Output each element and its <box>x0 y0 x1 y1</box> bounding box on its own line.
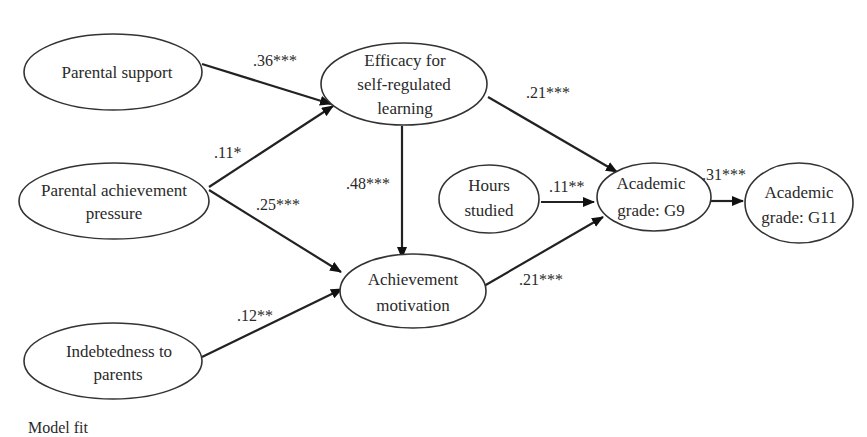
node-label-line2: pressure <box>86 204 143 223</box>
node-academic-grade-g9: Academic grade: G9 <box>597 163 711 231</box>
node-label-line1: Indebtedness to <box>66 342 172 361</box>
coef-pressure-efficacy: .11* <box>214 144 241 161</box>
model-fit-label: Model fit <box>28 419 88 437</box>
node-label-line1: Parental achievement <box>41 181 187 200</box>
node-parental-achievement-pressure: Parental achievement pressure <box>19 163 209 239</box>
coef-motivation-g9: .21*** <box>519 271 563 288</box>
node-label-line3: learning <box>377 99 433 118</box>
node-efficacy-self-regulated-learning: Efficacy for self-regulated learning <box>321 43 487 125</box>
node-parental-support: Parental support <box>24 34 202 110</box>
node-label-line1: Achievement <box>368 270 459 289</box>
node-indebtedness-to-parents: Indebtedness to parents <box>24 323 202 399</box>
coef-efficacy-g9: .21*** <box>526 84 570 101</box>
node-label-line2: parents <box>93 365 142 384</box>
node-hours-studied: Hours studied <box>439 165 539 233</box>
coef-pressure-motivation: .25*** <box>256 196 300 213</box>
node-achievement-motivation: Achievement motivation <box>340 254 486 328</box>
node-label-line1: Hours <box>468 176 510 195</box>
node-label-line1: Academic <box>765 183 834 202</box>
node-label-line2: self-regulated <box>357 75 451 94</box>
coef-indebtedness-motivation: .12** <box>237 307 273 324</box>
coef-support-efficacy: .36*** <box>253 52 297 69</box>
node-academic-grade-g11: Academic grade: G11 <box>745 163 853 243</box>
node-label-line1: Academic <box>617 174 686 193</box>
coef-hours-g9: .11** <box>549 178 584 195</box>
coef-efficacy-motivation: .48*** <box>346 175 390 192</box>
edge-efficacy-to-g9 <box>488 97 617 172</box>
edge-support-to-efficacy <box>202 64 331 104</box>
node-label-line1: Efficacy for <box>364 51 446 70</box>
node-label-line2: motivation <box>376 296 450 315</box>
node-label: Parental support <box>62 63 173 82</box>
node-label-line2: studied <box>464 201 514 220</box>
node-label-line2: grade: G9 <box>617 201 685 220</box>
coef-g9-g11: .31*** <box>702 166 746 183</box>
node-label-line2: grade: G11 <box>761 208 836 227</box>
